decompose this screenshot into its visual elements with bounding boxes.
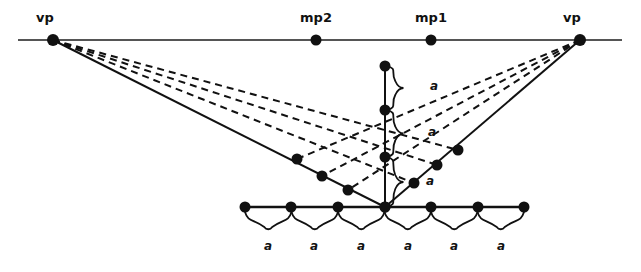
vp-left-to-ground bbox=[53, 40, 385, 207]
left-edge-dot-3 bbox=[343, 185, 354, 196]
bottom-a-label-4: a bbox=[404, 239, 412, 253]
perspective-diagram: vp vp mp2 mp1 aaa aaaaaa bbox=[0, 0, 641, 272]
center-node-2 bbox=[380, 105, 391, 116]
left-edge-dot-2 bbox=[317, 171, 328, 182]
ground-dot-6 bbox=[473, 202, 484, 213]
bottom-a-label-5: a bbox=[450, 239, 458, 253]
ground-dot-7 bbox=[519, 202, 530, 213]
right-edge-dot-3 bbox=[409, 178, 420, 189]
dashed-ray-group bbox=[53, 40, 580, 190]
center-node-3 bbox=[380, 152, 391, 163]
vpleft-ray-1 bbox=[53, 40, 458, 150]
vp-left-label: vp bbox=[36, 10, 54, 25]
vp-right-dot bbox=[574, 34, 586, 46]
mp1-dot bbox=[426, 35, 437, 46]
center-node-1 bbox=[380, 61, 391, 72]
bottom-brace-segment-6 bbox=[478, 212, 525, 229]
vertical-a-label-3: a bbox=[426, 174, 434, 188]
bottom-a-label-2: a bbox=[310, 239, 318, 253]
bottom-a-label-group: aaaaaa bbox=[264, 239, 505, 253]
vertical-brace-1 bbox=[387, 66, 404, 110]
right-edge-dot-2 bbox=[432, 160, 443, 171]
vpright-ray-1 bbox=[297, 40, 580, 159]
bottom-brace-segment-2 bbox=[292, 212, 339, 229]
ground-dot-1 bbox=[240, 202, 251, 213]
bottom-measure-brace bbox=[245, 212, 524, 229]
bottom-a-label-6: a bbox=[497, 239, 505, 253]
vpleft-ray-3 bbox=[53, 40, 414, 183]
vp-left-dot bbox=[47, 34, 59, 46]
vertical-a-label-1: a bbox=[430, 79, 438, 93]
bottom-brace-segment-1 bbox=[245, 212, 292, 229]
ground-dot-3 bbox=[333, 202, 344, 213]
bottom-brace-segment-3 bbox=[338, 212, 385, 229]
right-edge-dot-1 bbox=[453, 145, 464, 156]
diagram-canvas: vp vp mp2 mp1 aaa aaaaaa bbox=[0, 0, 641, 272]
mp2-dot bbox=[311, 35, 322, 46]
bottom-a-label-3: a bbox=[357, 239, 365, 253]
vp-right-label: vp bbox=[563, 10, 581, 25]
bottom-brace-segment-4 bbox=[385, 212, 432, 229]
bottom-brace-segment-5 bbox=[431, 212, 478, 229]
vpleft-ray-2 bbox=[53, 40, 437, 165]
mp2-label: mp2 bbox=[300, 10, 332, 25]
mp1-label: mp1 bbox=[415, 10, 447, 25]
ground-dot-5 bbox=[426, 202, 437, 213]
left-edge-dot-1 bbox=[292, 154, 303, 165]
bottom-a-label-1: a bbox=[264, 239, 272, 253]
solid-ray-group bbox=[53, 40, 580, 207]
ground-dot-4 bbox=[380, 202, 391, 213]
ground-dot-2 bbox=[286, 202, 297, 213]
vpright-ray-2 bbox=[322, 40, 580, 176]
vertical-a-label-2: a bbox=[428, 125, 436, 139]
